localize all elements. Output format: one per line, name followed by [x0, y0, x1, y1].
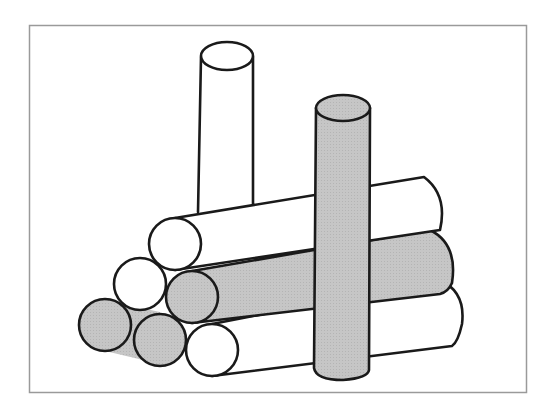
- top-log-end: [149, 218, 201, 270]
- cylinders-illustration: [0, 0, 560, 419]
- bottom-middle-log-end: [134, 314, 186, 366]
- bottom-left-log-end: [79, 299, 131, 351]
- middle-gray-log-end: [166, 271, 218, 323]
- illustration: [0, 0, 560, 419]
- gray-front-cylinder: [314, 95, 370, 380]
- tall-white-cylinder: [198, 42, 253, 215]
- middle-left-log-end: [114, 258, 166, 310]
- bottom-right-log-end: [186, 324, 238, 376]
